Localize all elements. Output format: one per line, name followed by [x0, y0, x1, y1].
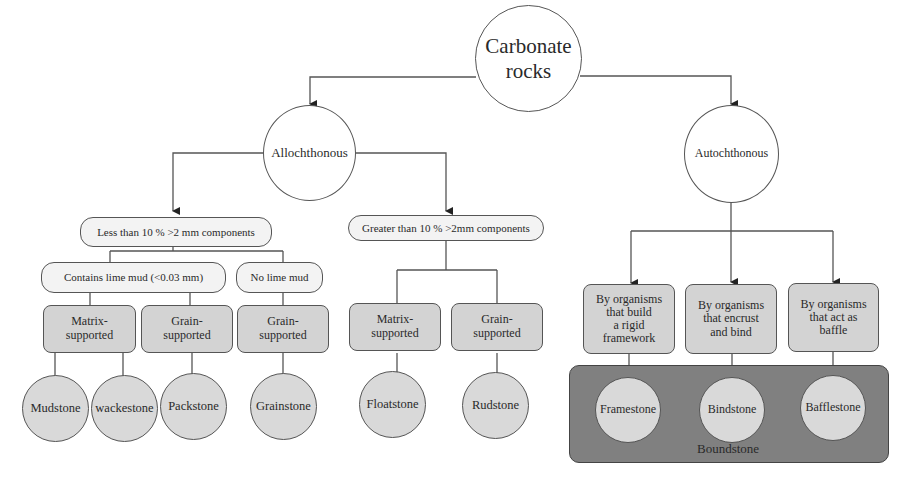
support-label-line2: supported [66, 329, 113, 343]
allochthonous-label: Allochthonous [271, 146, 348, 161]
greater-than-label: Greater than 10 % >2mm components [362, 222, 530, 235]
node-matrix-supported-1: Matrix- supported [43, 305, 136, 353]
rock-bafflestone: Bafflestone [800, 375, 866, 441]
rock-grainstone: Grainstone [250, 373, 317, 440]
node-autochthonous: Autochthonous [684, 105, 779, 203]
less-than-label: Less than 10 % >2 mm components [97, 226, 255, 239]
organism-label-line: By organisms [596, 293, 662, 306]
root-label-line1: Carbonate [485, 34, 571, 58]
support-label-line2: supported [259, 329, 306, 343]
node-organisms-rigid-framework: By organisms that build a rigid framewor… [583, 284, 675, 354]
node-matrix-supported-2: Matrix- supported [349, 303, 441, 351]
rock-label: Bindstone [708, 403, 757, 417]
rock-label: Mudstone [31, 401, 81, 415]
carbonate-classification-diagram: Carbonate rocks Allochthonous Autochthon… [0, 0, 913, 490]
organism-label-line: By organisms [800, 298, 866, 311]
support-label-line1: Grain- [481, 313, 512, 327]
rock-label: wackestone [95, 401, 153, 415]
node-contains-lime-mud: Contains lime mud (<0.03 mm) [41, 262, 226, 293]
support-label-line1: Grain- [171, 315, 202, 329]
organism-label-line: that encrust [703, 312, 759, 325]
rock-bindstone: Bindstone [699, 377, 765, 443]
node-no-lime-mud: No lime mud [236, 262, 323, 293]
rock-floatstone: Floatstone [359, 371, 426, 438]
support-label-line2: supported [371, 327, 418, 341]
rock-wackestone: wackestone [91, 375, 158, 442]
no-lime-mud-label: No lime mud [250, 271, 308, 284]
support-label-line1: Matrix- [377, 313, 414, 327]
node-grain-supported-3: Grain- supported [451, 303, 543, 351]
rock-mudstone: Mudstone [22, 375, 89, 442]
rock-label: Packstone [168, 399, 219, 413]
rock-label: Rudstone [472, 398, 519, 412]
support-label-line2: supported [163, 329, 210, 343]
support-label-line1: Grain- [267, 315, 298, 329]
contains-lime-mud-label: Contains lime mud (<0.03 mm) [64, 271, 203, 284]
node-organisms-encrust-bind: By organisms that encrust and bind [685, 284, 777, 354]
rock-rudstone: Rudstone [462, 372, 529, 439]
rock-packstone: Packstone [160, 373, 227, 440]
boundstone-label: Boundstone [697, 441, 759, 457]
node-less-than-10-percent: Less than 10 % >2 mm components [80, 217, 272, 247]
rock-framestone: Framestone [595, 377, 661, 443]
node-greater-than-10-percent: Greater than 10 % >2mm components [348, 215, 544, 241]
organism-label-line: baffle [820, 324, 848, 337]
node-grain-supported-2: Grain- supported [237, 305, 329, 353]
autochthonous-label: Autochthonous [695, 147, 768, 161]
organism-label-line: framework [603, 332, 656, 345]
node-allochthonous: Allochthonous [263, 105, 356, 201]
support-label-line2: supported [473, 327, 520, 341]
rock-label: Floatstone [366, 397, 418, 411]
support-label-line1: Matrix- [71, 315, 108, 329]
rock-label: Grainstone [256, 399, 311, 413]
node-grain-supported-1: Grain- supported [141, 305, 233, 353]
root-label-line2: rocks [506, 59, 552, 83]
rock-label: Framestone [600, 403, 656, 417]
rock-label: Bafflestone [805, 401, 860, 415]
root-node-carbonate-rocks: Carbonate rocks [475, 5, 582, 112]
organism-label-line: and bind [710, 326, 752, 339]
node-organisms-baffle: By organisms that act as baffle [788, 283, 879, 352]
